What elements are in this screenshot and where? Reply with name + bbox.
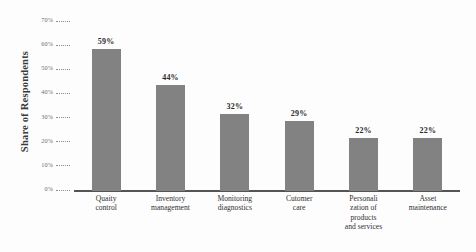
- x-axis-category-label-line: Inventory: [138, 194, 202, 203]
- bar-chart: Share of Respondents 0%10%20%30%40%50%60…: [0, 0, 476, 252]
- x-axis-category-label-line: zation of: [331, 203, 395, 212]
- bar-value-label: 22%: [355, 126, 372, 135]
- bar-value-label: 59%: [98, 37, 115, 46]
- bar-group[interactable]: 29%: [285, 107, 314, 191]
- bar[interactable]: [349, 138, 378, 191]
- y-axis-tick-label: 20%: [41, 137, 53, 144]
- y-axis-tick-dash: [56, 21, 70, 22]
- bar-group[interactable]: 44%: [156, 71, 185, 191]
- bar-value-label: 29%: [291, 109, 308, 118]
- x-axis-category-label-line: control: [74, 203, 138, 212]
- x-axis-category-label-line: care: [267, 203, 331, 212]
- x-axis-category-label-line: Monitoring: [203, 194, 267, 203]
- y-axis-tick-label: 0%: [45, 185, 53, 192]
- bar[interactable]: [413, 138, 442, 191]
- x-axis-category-label: Cutomercare: [267, 194, 331, 213]
- bar[interactable]: [92, 49, 121, 191]
- x-axis-category-label: Assetmaintenance: [396, 194, 460, 213]
- y-axis-tick-dash: [56, 117, 70, 118]
- x-axis-category-label: Quaitycontrol: [74, 194, 138, 213]
- x-axis-category-label-line: diagnostics: [203, 203, 267, 212]
- bar-value-label: 44%: [162, 73, 179, 82]
- bar[interactable]: [220, 114, 249, 191]
- bar-group[interactable]: 59%: [92, 35, 121, 191]
- y-axis-title: Share of Respondents: [19, 22, 30, 182]
- x-axis-category-label-line: Asset: [396, 194, 460, 203]
- y-axis-tick-dash: [56, 165, 70, 166]
- bar-group[interactable]: 22%: [413, 124, 442, 191]
- y-axis-tick-dash: [56, 45, 70, 46]
- bar-value-label: 22%: [420, 126, 437, 135]
- bar[interactable]: [156, 85, 185, 191]
- bar-group[interactable]: 22%: [349, 124, 378, 191]
- y-axis-tick-label: 60%: [41, 40, 53, 47]
- x-axis-category-label-line: and services: [331, 222, 395, 231]
- x-axis-category-label-line: Personali: [331, 194, 395, 203]
- x-axis-category-label-line: management: [138, 203, 202, 212]
- y-axis-tick-dash: [56, 141, 70, 142]
- x-axis-category-label-line: maintenance: [396, 203, 460, 212]
- bar[interactable]: [285, 121, 314, 191]
- x-axis-category-label: Inventorymanagement: [138, 194, 202, 213]
- x-axis-category-label-line: products: [331, 213, 395, 222]
- y-axis-tick-label: 10%: [41, 161, 53, 168]
- x-axis-category-label-line: Quaity: [74, 194, 138, 203]
- x-axis-category-label: Personalization ofproductsand services: [331, 194, 395, 232]
- y-axis-tick-label: 70%: [41, 16, 53, 23]
- y-axis-tick-dash: [56, 190, 70, 191]
- plot-area: 59%44%32%29%22%22%: [74, 21, 460, 191]
- y-axis-tick-label: 40%: [41, 88, 53, 95]
- y-axis-tick-dash: [56, 69, 70, 70]
- y-axis-tick-label: 50%: [41, 64, 53, 71]
- x-axis-category-label: Monitoringdiagnostics: [203, 194, 267, 213]
- bar-value-label: 32%: [227, 102, 244, 111]
- bar-group[interactable]: 32%: [220, 100, 249, 191]
- y-axis-tick-dash: [56, 93, 70, 94]
- y-axis-tick-label: 30%: [41, 113, 53, 120]
- x-axis-category-label-line: Cutomer: [267, 194, 331, 203]
